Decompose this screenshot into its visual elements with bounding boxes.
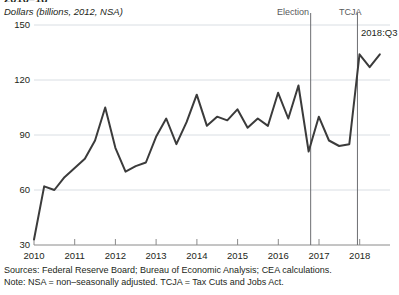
footnote-note: Note: NSA = non–seasonally adjusted. TCJ…: [4, 277, 396, 289]
chart-figure: 2010–18 Dollars (billions, 2012, NSA) 15…: [0, 0, 399, 295]
x-tick-2013: 2013: [136, 250, 176, 262]
x-tick-2017: 2017: [299, 250, 339, 262]
footnotes: Sources: Federal Reserve Board; Bureau o…: [4, 265, 396, 288]
x-tick-2016: 2016: [258, 250, 298, 262]
footnote-sources: Sources: Federal Reserve Board; Bureau o…: [4, 265, 396, 277]
election-label: Election: [277, 7, 309, 17]
plot-svg: [34, 25, 390, 245]
x-tick-2014: 2014: [177, 250, 217, 262]
tcja-label: TCJA: [339, 7, 362, 17]
last-point-label: 2018:Q3: [361, 27, 397, 38]
data-series-line: [34, 54, 380, 239]
x-tick-2018: 2018: [340, 250, 380, 262]
x-tick-2015: 2015: [218, 250, 258, 262]
gridlines: [34, 25, 390, 190]
plot-area: Election TCJA 2018:Q3: [34, 25, 390, 245]
y-tick-90: 90: [4, 130, 30, 140]
x-tick-2012: 2012: [95, 250, 135, 262]
x-tick-2011: 2011: [55, 250, 95, 262]
y-tick-30: 30: [4, 240, 30, 250]
x-axis-labels: 2010 2011 2012 2013 2014 2015 2016 2017 …: [0, 250, 399, 264]
y-tick-150: 150: [4, 20, 30, 30]
x-tick-2010: 2010: [14, 250, 54, 262]
y-tick-120: 120: [4, 75, 30, 85]
y-tick-60: 60: [4, 185, 30, 195]
